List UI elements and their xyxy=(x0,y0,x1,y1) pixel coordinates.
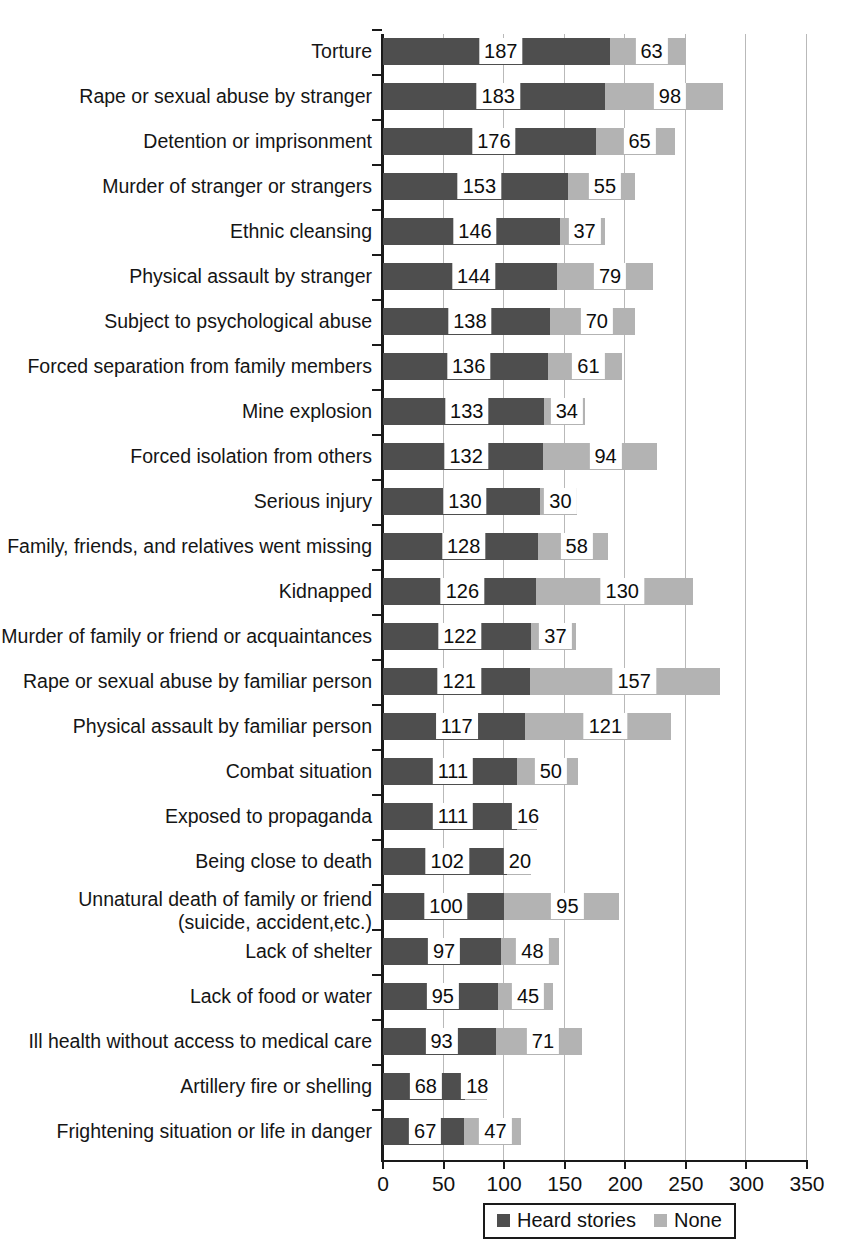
bar-row: Physical assault by familiar person11712… xyxy=(0,713,841,758)
value-label-heard-stories: 144 xyxy=(452,263,495,289)
stacked-bar: 6747 xyxy=(383,1118,521,1145)
value-label-heard-stories: 153 xyxy=(458,173,501,199)
value-label-heard-stories: 122 xyxy=(438,623,481,649)
value-label-none: 45 xyxy=(512,983,544,1009)
y-tick xyxy=(372,974,382,976)
value-label-none: 55 xyxy=(589,173,621,199)
y-tick xyxy=(372,569,382,571)
stacked-bar: 12858 xyxy=(383,533,608,560)
bar-row: Family, friends, and relatives went miss… xyxy=(0,533,841,578)
value-label-heard-stories: 126 xyxy=(441,578,484,604)
y-tick xyxy=(372,1064,382,1066)
stacked-bar: 117121 xyxy=(383,713,671,740)
category-label: Frightening situation or life in danger xyxy=(0,1120,372,1143)
category-label: Forced isolation from others xyxy=(0,445,372,468)
bar-row: Being close to death10220 xyxy=(0,848,841,893)
x-tick-300 xyxy=(745,1160,747,1169)
y-tick xyxy=(372,434,382,436)
y-tick xyxy=(372,299,382,301)
category-label: Mine explosion xyxy=(0,400,372,423)
x-tick-label-150: 150 xyxy=(547,1172,582,1196)
x-tick-label-50: 50 xyxy=(432,1172,455,1196)
bar-row: Kidnapped126130 xyxy=(0,578,841,623)
value-label-heard-stories: 133 xyxy=(445,398,488,424)
value-label-none: 37 xyxy=(539,623,571,649)
bar-row: Forced separation from family members136… xyxy=(0,353,841,398)
legend-label-heard-stories: Heard stories xyxy=(517,1209,636,1232)
category-label: Rape or sexual abuse by stranger xyxy=(0,85,372,108)
category-label: Unnatural death of family or friend (sui… xyxy=(0,888,372,934)
category-label: Exposed to propaganda xyxy=(0,805,372,828)
value-label-none: 71 xyxy=(527,1028,559,1054)
x-tick-label-300: 300 xyxy=(729,1172,764,1196)
value-label-heard-stories: 121 xyxy=(438,668,481,694)
bar-row: Serious injury13030 xyxy=(0,488,841,533)
value-label-heard-stories: 111 xyxy=(433,803,473,829)
stacked-bar: 121157 xyxy=(383,668,720,695)
value-label-none: 20 xyxy=(504,848,536,874)
stacked-bar: 6818 xyxy=(383,1073,487,1100)
value-label-none: 65 xyxy=(623,128,655,154)
category-label: Ethnic cleansing xyxy=(0,220,372,243)
x-tick-0 xyxy=(382,1160,384,1169)
y-tick xyxy=(372,749,382,751)
y-tick xyxy=(372,524,382,526)
x-tick-100 xyxy=(503,1160,505,1169)
y-tick xyxy=(372,929,382,931)
value-label-none: 61 xyxy=(572,353,604,379)
value-label-heard-stories: 128 xyxy=(442,533,485,559)
value-label-none: 63 xyxy=(635,38,667,64)
category-label: Physical assault by stranger xyxy=(0,265,372,288)
y-tick xyxy=(372,74,382,76)
stacked-bar: 12237 xyxy=(383,623,576,650)
value-label-none: 157 xyxy=(613,668,656,694)
x-tick-150 xyxy=(564,1160,566,1169)
value-label-heard-stories: 138 xyxy=(448,308,491,334)
y-tick xyxy=(372,344,382,346)
y-tick xyxy=(372,254,382,256)
value-label-heard-stories: 111 xyxy=(433,758,473,784)
y-tick xyxy=(372,884,382,886)
category-label: Family, friends, and relatives went miss… xyxy=(0,535,372,558)
legend-item-none: None xyxy=(654,1209,722,1232)
stacked-bar: 14637 xyxy=(383,218,605,245)
value-label-none: 16 xyxy=(512,803,544,829)
bar-row: Physical assault by stranger14479 xyxy=(0,263,841,308)
bar-row: Exposed to propaganda11116 xyxy=(0,803,841,848)
category-label: Serious injury xyxy=(0,490,372,513)
value-label-heard-stories: 97 xyxy=(428,938,460,964)
bar-row: Rape or sexual abuse by familiar person1… xyxy=(0,668,841,713)
stacked-bar: 11116 xyxy=(383,803,537,830)
stacked-bar: 18398 xyxy=(383,83,723,110)
legend-label-none: None xyxy=(674,1209,722,1232)
category-label: Rape or sexual abuse by familiar person xyxy=(0,670,372,693)
y-tick xyxy=(372,389,382,391)
stacked-bar: 17665 xyxy=(383,128,675,155)
x-tick-250 xyxy=(685,1160,687,1169)
value-label-none: 130 xyxy=(601,578,644,604)
x-axis-line xyxy=(382,1160,807,1162)
x-tick-label-200: 200 xyxy=(608,1172,643,1196)
category-label: Artillery fire or shelling xyxy=(0,1075,372,1098)
category-label: Torture xyxy=(0,40,372,63)
category-label: Forced separation from family members xyxy=(0,355,372,378)
y-tick xyxy=(372,1109,382,1111)
x-tick-label-350: 350 xyxy=(789,1172,824,1196)
value-label-heard-stories: 93 xyxy=(425,1028,457,1054)
x-tick-200 xyxy=(624,1160,626,1169)
value-label-none: 58 xyxy=(561,533,593,559)
value-label-heard-stories: 68 xyxy=(410,1073,442,1099)
bar-row: Artillery fire or shelling6818 xyxy=(0,1073,841,1118)
stacked-bar: 15355 xyxy=(383,173,635,200)
stacked-bar: 10220 xyxy=(383,848,531,875)
x-tick-label-250: 250 xyxy=(668,1172,703,1196)
value-label-none: 121 xyxy=(584,713,627,739)
stacked-bar: 13870 xyxy=(383,308,635,335)
value-label-heard-stories: 100 xyxy=(424,893,467,919)
category-label: Ill health without access to medical car… xyxy=(0,1030,372,1053)
stacked-bar-chart: Torture18763Rape or sexual abuse by stra… xyxy=(0,0,841,1252)
value-label-none: 95 xyxy=(551,893,583,919)
stacked-bar: 126130 xyxy=(383,578,693,605)
value-label-none: 94 xyxy=(589,443,621,469)
x-tick-50 xyxy=(443,1160,445,1169)
